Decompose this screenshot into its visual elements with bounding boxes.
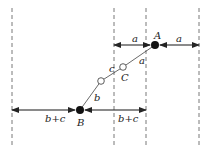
label-seg-b: b: [94, 92, 100, 103]
label-point-c: C: [121, 72, 129, 83]
point-b: [76, 106, 84, 114]
label-seg-a: a: [139, 55, 145, 66]
label-bottom-left-bc: b+c: [45, 113, 66, 124]
label-top-right-a: a: [176, 33, 182, 44]
label-point-b: B: [76, 117, 84, 128]
point-a: [151, 41, 159, 49]
label-top-left-a: a: [132, 33, 138, 44]
linkage-diagram: A B C a b c a a b+c b+c: [0, 0, 212, 155]
joint-open-1: [98, 78, 105, 85]
label-seg-c: c: [109, 63, 115, 74]
label-bottom-right-bc: b+c: [118, 113, 139, 124]
joint-open-2: [120, 64, 127, 71]
label-point-a: A: [153, 30, 161, 41]
